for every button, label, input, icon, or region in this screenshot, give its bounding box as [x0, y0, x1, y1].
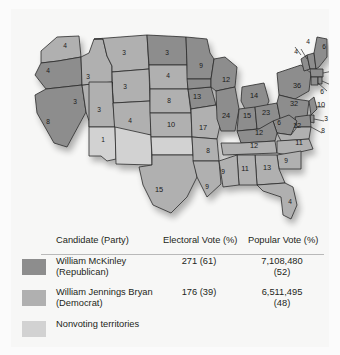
- state-vote-label-PA: 32: [290, 99, 298, 108]
- legend-table: Candidate (Party) Electoral Vote (%) Pop…: [11, 232, 329, 347]
- state-vote-label-AR: 8: [206, 147, 210, 154]
- legend-swatch-nonvoting: [22, 321, 46, 337]
- state-CT: [311, 77, 318, 85]
- state-IA2: [187, 79, 211, 89]
- state-vote-label-SD: 4: [166, 72, 170, 79]
- popular-line2: (48): [274, 298, 291, 308]
- state-vote-label-VA: 12: [293, 121, 301, 130]
- map-area: 4433349121436446154632103823152413833384…: [11, 9, 329, 231]
- state-vote-label-NE: 8: [167, 97, 171, 104]
- state-vote-label-WI: 12: [222, 75, 230, 84]
- electoral-vote-democrat: 176 (39): [163, 287, 235, 298]
- popular-line1: 6,511,495: [262, 287, 303, 297]
- territory-OK: [151, 137, 193, 155]
- table-row: William McKinley (Republican) 271 (61) 7…: [11, 256, 329, 287]
- electoral-vote-republican: 271 (61): [163, 256, 235, 267]
- state-vote-label-IA: 13: [193, 92, 201, 101]
- state-vote-label-KS: 10: [167, 120, 175, 129]
- state-vote-label-WA: 4: [63, 42, 67, 49]
- state-RI: [318, 77, 322, 84]
- candidate-line2: (Republican): [56, 267, 109, 277]
- election-map-figure: 4433349121436446154632103823152413833384…: [0, 0, 340, 355]
- legend-label-nonvoting: Nonvoting territories: [56, 319, 139, 329]
- state-vote-label-OH: 23: [262, 108, 270, 117]
- state-vote-label-ID: 3: [86, 73, 90, 80]
- state-vote-label-NC: 11: [295, 138, 303, 147]
- col-header-candidate: Candidate (Party): [56, 235, 129, 245]
- state-vote-label-WV: 6: [277, 119, 281, 126]
- candidate-line2: (Democrat): [56, 298, 103, 308]
- state-vote-label-MI: 14: [250, 91, 258, 100]
- table-row: William Jennings Bryan (Democrat) 176 (3…: [11, 287, 329, 318]
- popular-line2: (52): [274, 267, 291, 277]
- state-vote-label-CA: 8: [46, 118, 50, 125]
- state-WY: [112, 69, 150, 103]
- state-vote-label-ME: 6: [322, 43, 326, 50]
- table-row: Nonvoting territories: [11, 318, 329, 344]
- state-vote-label-FL: 4: [288, 198, 292, 205]
- state-vote-label-CT: 6: [320, 88, 324, 95]
- map-shapes: [35, 35, 327, 219]
- state-vote-label-MS: 9: [221, 168, 225, 175]
- territory-AZ: [89, 127, 116, 161]
- col-header-electoral: Electoral Vote (%): [163, 235, 237, 245]
- state-vote-label-MO: 17: [199, 123, 207, 132]
- state-vote-label-TN: 12: [250, 141, 258, 150]
- state-vote-label-SC: 9: [284, 157, 288, 164]
- candidate-name-republican: William McKinley (Republican): [56, 256, 126, 279]
- state-vote-label-NH: 4: [306, 38, 310, 45]
- state-vote-label-NV: 3: [73, 98, 77, 105]
- state-MN: [186, 37, 214, 79]
- state-CA: [35, 85, 86, 147]
- state-IL: [216, 87, 239, 131]
- state-vote-label-AL: 11: [241, 164, 249, 173]
- state-UT-main: [89, 82, 115, 127]
- candidate-line1: William McKinley: [56, 256, 126, 266]
- state-vote-label-KY: 12: [255, 128, 263, 137]
- candidate-line1: William Jennings Bryan: [56, 287, 153, 297]
- state-vote-label-OR: 4: [46, 67, 50, 74]
- state-vote-label-OK: 1: [101, 136, 105, 143]
- state-vote-label-GA: 13: [263, 163, 271, 172]
- state-vote-label-IL: 24: [222, 111, 230, 120]
- popular-vote-democrat: 6,511,495 (48): [243, 287, 321, 310]
- table-header-row: Candidate (Party) Electoral Vote (%) Pop…: [11, 232, 329, 256]
- us-electoral-map: 4433349121436446154632103823152413833384…: [11, 9, 329, 231]
- state-vote-label-MT: 3: [122, 49, 126, 56]
- state-vote-label-MN: 9: [199, 62, 203, 69]
- state-vote-label-WY: 3: [123, 83, 127, 90]
- header-rule: [41, 254, 324, 255]
- state-vote-label-UT: 3: [97, 106, 101, 113]
- state-MA: [310, 69, 323, 77]
- state-vote-label-NY: 36: [293, 81, 301, 90]
- state-vote-label-IN: 15: [243, 111, 251, 120]
- col-header-popular: Popular Vote (%): [248, 235, 318, 245]
- legend-swatch-republican: [22, 259, 46, 275]
- state-vote-label-TX: 15: [155, 185, 163, 194]
- state-NJ: [309, 97, 317, 115]
- candidate-name-democrat: William Jennings Bryan (Democrat): [56, 287, 153, 310]
- state-vote-label-ND: 3: [165, 49, 169, 56]
- popular-vote-republican: 7,108,480 (52): [243, 256, 321, 279]
- legend-swatch-democrat: [22, 290, 46, 306]
- state-LA: [193, 161, 221, 197]
- popular-line1: 7,108,480: [261, 256, 302, 266]
- state-vote-label-LA: 9: [205, 183, 209, 190]
- state-vote-label-NJ: 10: [317, 100, 325, 109]
- state-vote-label-DE: 3: [324, 115, 328, 122]
- state-vote-label-CO: 4: [128, 117, 132, 124]
